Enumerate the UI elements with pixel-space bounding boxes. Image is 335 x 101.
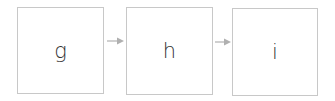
arrow-icon: [215, 37, 231, 47]
node-label: i: [272, 40, 278, 64]
node-label: g: [54, 39, 67, 63]
node-label: h: [163, 39, 176, 63]
node-h: h: [126, 7, 213, 95]
arrow-icon: [107, 36, 124, 46]
node-g: g: [17, 7, 104, 94]
node-i: i: [232, 8, 318, 96]
